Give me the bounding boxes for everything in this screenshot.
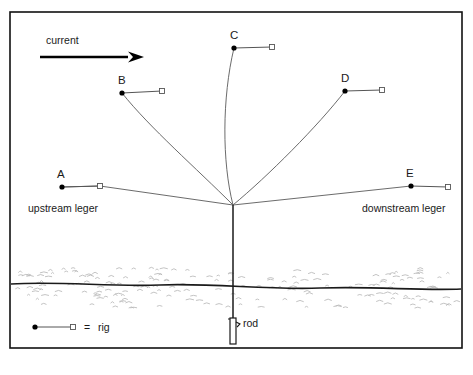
- stipple-mark: [226, 306, 231, 307]
- stipple-mark: [150, 278, 154, 279]
- stipple-mark: [132, 268, 136, 269]
- rig-segment-e: [411, 186, 448, 187]
- stipple-mark: [388, 287, 393, 288]
- stipple-mark: [204, 303, 210, 304]
- rig-label-a: A: [57, 168, 65, 180]
- stipple-mark: [282, 281, 286, 282]
- stipple-mark: [297, 300, 304, 301]
- rig-hook-dot-icon-e: [408, 183, 413, 188]
- stipple-mark: [258, 306, 264, 307]
- stipple-mark: [105, 289, 111, 290]
- stipple-mark: [123, 276, 127, 277]
- rig-lines-group: ABCDE: [57, 29, 451, 205]
- stipple-mark: [400, 279, 404, 280]
- stipple-mark: [113, 306, 118, 307]
- stipple-mark: [153, 279, 159, 280]
- stipple-mark: [393, 276, 399, 277]
- stipple-mark: [170, 286, 175, 287]
- stipple-mark: [384, 292, 391, 293]
- legend-group: = rig: [32, 321, 109, 333]
- stipple-mark: [90, 304, 94, 305]
- stipple-mark: [113, 294, 117, 295]
- stipple-mark: [322, 274, 328, 275]
- leger-rig-diagram: current ABCDE rod upstream legerdownstre…: [0, 0, 473, 375]
- rig-segment-a: [62, 186, 100, 187]
- stipple-mark: [390, 273, 395, 274]
- stipple-mark: [191, 295, 197, 296]
- stipple-mark: [294, 270, 301, 271]
- stipple-mark: [377, 300, 383, 301]
- stipple-mark: [27, 275, 34, 276]
- stipple-mark: [40, 280, 43, 281]
- stipple-mark: [418, 278, 424, 279]
- stipple-mark: [55, 290, 62, 291]
- upstream-leger-label: upstream leger: [28, 202, 99, 214]
- rig-weight-square-icon-b: [160, 89, 165, 94]
- diagram-canvas: current ABCDE rod upstream legerdownstre…: [0, 0, 473, 375]
- stipple-mark: [343, 307, 347, 308]
- stipple-mark: [301, 279, 308, 280]
- stipple-mark: [358, 294, 362, 295]
- stipple-mark: [293, 276, 297, 277]
- rig-hook-dot-icon-b: [119, 90, 124, 95]
- stipple-mark: [106, 282, 112, 283]
- stipple-mark: [157, 305, 162, 306]
- stipple-mark: [215, 279, 219, 280]
- stipple-mark: [123, 291, 128, 292]
- stipple-mark: [62, 268, 65, 269]
- stipple-mark: [120, 301, 123, 302]
- stipple-mark: [40, 272, 47, 273]
- stipple-mark: [407, 277, 412, 278]
- stipple-mark: [283, 298, 287, 299]
- stipple-mark: [149, 267, 154, 268]
- stipple-mark: [447, 272, 450, 273]
- stipple-mark: [420, 281, 424, 282]
- stipple-mark: [391, 298, 395, 299]
- stipple-mark: [236, 297, 241, 298]
- stipple-mark: [217, 275, 220, 276]
- stipple-mark: [257, 285, 261, 286]
- stipple-mark: [167, 295, 171, 296]
- stipple-mark: [290, 286, 297, 287]
- rig-weight-square-icon-c: [270, 45, 275, 50]
- stipple-mark: [438, 277, 441, 278]
- stipple-mark: [27, 294, 30, 295]
- annotations-group: upstream legerdownstream leger: [28, 202, 446, 214]
- stipple-mark: [87, 275, 93, 276]
- stipple-mark: [305, 306, 308, 307]
- stipple-mark: [349, 286, 352, 287]
- legend-hook-dot-icon: [32, 324, 37, 329]
- stipple-mark: [95, 277, 99, 278]
- stipple-mark: [308, 272, 314, 273]
- stipple-mark: [160, 268, 167, 269]
- stipple-mark: [369, 294, 374, 295]
- stipple-mark: [39, 285, 46, 286]
- stipple-mark: [314, 278, 321, 279]
- stipple-mark: [117, 283, 121, 284]
- stipple-mark: [16, 287, 20, 288]
- stipple-mark: [137, 289, 142, 290]
- stipple-mark: [97, 298, 104, 299]
- stipple-mark: [355, 284, 362, 285]
- stipple-mark: [441, 303, 448, 304]
- stipple-mark: [420, 299, 427, 300]
- stipple-mark: [381, 279, 387, 280]
- rig-segment-c: [234, 47, 272, 48]
- stipple-mark: [36, 298, 39, 299]
- stipple-mark: [121, 294, 124, 295]
- stipple-mark: [54, 295, 57, 296]
- stipple-mark: [294, 282, 299, 283]
- stipple-mark: [149, 276, 152, 277]
- stipple-mark: [93, 272, 98, 273]
- stipple-mark: [27, 286, 33, 287]
- leger-line-b: [122, 93, 233, 205]
- stipple-mark: [38, 274, 44, 275]
- stipple-mark: [268, 279, 274, 280]
- stipple-mark: [404, 295, 408, 296]
- stipple-mark: [392, 282, 395, 283]
- stipple-mark: [239, 304, 242, 305]
- stipple-mark: [325, 299, 332, 300]
- stipple-mark: [98, 286, 104, 287]
- stipple-mark: [45, 276, 51, 277]
- stipple-mark: [139, 281, 144, 282]
